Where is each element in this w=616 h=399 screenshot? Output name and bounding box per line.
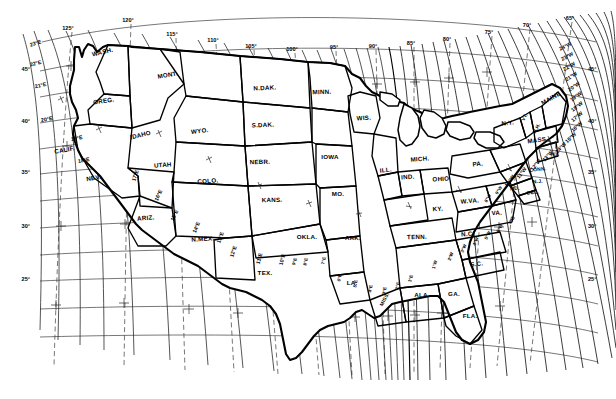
state-label-colo: COLO. [197, 176, 218, 184]
longitude-tick-105: 105° [245, 43, 257, 49]
state-label-okla: OKLA. [297, 233, 318, 240]
state-label-nc: N.C. [461, 230, 475, 238]
state-label-ala: ALA. [414, 291, 429, 298]
longitude-tick-75: 75° [485, 29, 493, 35]
longitude-tick-65: 65° [566, 15, 574, 21]
longitude-tick-125: 125° [62, 25, 74, 31]
state-label-ga: GA. [448, 290, 460, 297]
state-label-tenn: TENN. [407, 233, 427, 241]
latitude-tick-left-35: 35° [22, 169, 30, 175]
latitude-tick-right-40: 40° [588, 118, 596, 124]
latitude-tick-left-40: 40° [22, 118, 30, 124]
longitude-tick-70: 70° [523, 22, 531, 28]
isogonic-chart: WASH.OREG.CALIF.NEV.IDAHOMONT.WYO.UTAHCO… [0, 0, 616, 399]
state-label-ohio: OHIO [432, 175, 449, 183]
longitude-tick-80: 80° [443, 36, 451, 42]
state-label-kans: KANS. [262, 196, 283, 203]
state-label-minn: MINN. [312, 88, 331, 96]
latitude-tick-left-30: 30° [22, 223, 30, 229]
state-label-mich: MICH. [410, 154, 429, 162]
state-label-fla: FLA. [463, 312, 478, 319]
longitude-tick-90: 90° [369, 43, 377, 49]
map-canvas: WASH.OREG.CALIF.NEV.IDAHOMONT.WYO.UTAHCO… [0, 0, 616, 399]
state-label-pa: PA. [472, 160, 483, 168]
state-label-wva: W.VA. [460, 196, 479, 204]
longitude-tick-85: 85° [407, 40, 415, 46]
state-label-ky: KY. [432, 205, 443, 213]
latitude-tick-right-30: 30° [588, 223, 596, 229]
state-label-mo: MO. [332, 190, 344, 197]
latitude-tick-right-45: 45° [588, 66, 596, 72]
longitude-tick-100: 100° [286, 46, 298, 52]
latitude-tick-right-35: 35° [588, 169, 596, 175]
longitude-tick-95: 95° [330, 44, 338, 50]
state-label-md: MD. [510, 184, 521, 191]
longitude-tick-115: 115° [166, 31, 177, 37]
state-label-ndak: N.DAK. [253, 83, 276, 91]
state-label-sc: S.C. [470, 259, 484, 267]
longitude-tick-120: 120° [122, 17, 134, 23]
state-label-iowa: IOWA [321, 153, 339, 160]
state-label-ark: ARK. [345, 234, 361, 241]
latitude-tick-right-25: 25° [588, 276, 596, 282]
state-label-ill: ILL. [379, 165, 392, 173]
longitude-tick-110: 110° [207, 37, 218, 43]
state-label-ind: IND. [401, 173, 415, 181]
state-label-sdak: S.DAK. [252, 121, 275, 129]
state-label-wis: WIS. [356, 114, 371, 122]
state-label-nebr: NEBR. [250, 158, 271, 166]
state-label-tex: TEX. [258, 269, 273, 276]
state-label-va: VA. [491, 209, 502, 217]
state-label-ny: N.Y. [501, 118, 514, 126]
latitude-tick-left-45: 45° [22, 66, 30, 72]
state-label-nj: N.J. [533, 177, 544, 184]
latitude-tick-left-25: 25° [22, 276, 30, 282]
